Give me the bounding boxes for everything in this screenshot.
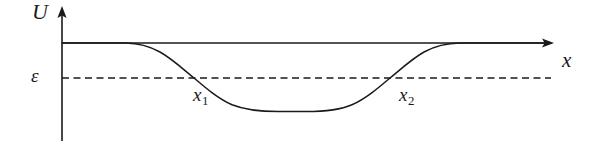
left-turning-point-symbol: x: [193, 84, 201, 105]
right-turning-point-subscript: 2: [408, 93, 414, 108]
potential-well-figure: U x ε x1 x2: [0, 0, 589, 145]
right-turning-point-label: x2: [399, 85, 414, 108]
y-axis-label: U: [32, 1, 48, 23]
energy-level-label: ε: [31, 66, 39, 85]
right-turning-point-symbol: x: [399, 84, 407, 105]
x-axis-label: x: [562, 50, 571, 71]
figure-canvas: [0, 0, 589, 145]
left-turning-point-label: x1: [193, 85, 208, 108]
left-turning-point-subscript: 1: [202, 93, 208, 108]
